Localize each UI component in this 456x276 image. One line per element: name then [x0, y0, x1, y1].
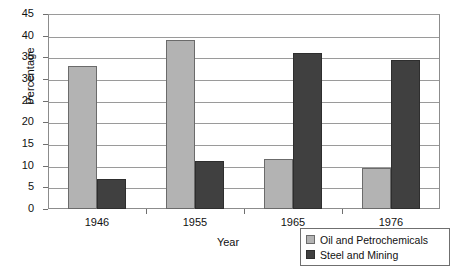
x-tick-label: 1965 — [258, 216, 328, 228]
bar[interactable] — [264, 159, 293, 209]
bar-group — [362, 14, 420, 209]
y-tick-label: 20 — [8, 116, 34, 127]
y-tick-label: 30 — [8, 73, 34, 84]
x-tick-label: 1976 — [356, 216, 426, 228]
chart-legend: Oil and Petrochemicals Steel and Mining — [300, 228, 450, 266]
x-tick-label: 1955 — [160, 216, 230, 228]
legend-item: Steel and Mining — [306, 247, 445, 262]
y-tick-label: 25 — [8, 95, 34, 106]
bar[interactable] — [195, 161, 224, 209]
bar[interactable] — [68, 66, 97, 209]
y-tick-label: 5 — [8, 181, 34, 192]
bar[interactable] — [391, 60, 420, 210]
bar-group — [68, 14, 126, 209]
x-tick-mark — [342, 209, 343, 214]
y-tick-label: 15 — [8, 138, 34, 149]
y-tick-label: 10 — [8, 160, 34, 171]
x-tick-label: 1946 — [62, 216, 132, 228]
legend-swatch-icon — [306, 250, 315, 259]
legend-swatch-icon — [306, 235, 315, 244]
bar[interactable] — [97, 179, 126, 209]
y-tick-label: 40 — [8, 30, 34, 41]
bar-chart: Percentage 454035302520151050 1946195519… — [0, 0, 456, 276]
legend-item: Oil and Petrochemicals — [306, 232, 445, 247]
y-tick-label: 35 — [8, 51, 34, 62]
x-tick-mark — [244, 209, 245, 214]
y-tick-mark — [43, 209, 48, 210]
bar-group — [264, 14, 322, 209]
bar[interactable] — [293, 53, 322, 209]
legend-item-label: Oil and Petrochemicals — [320, 234, 428, 246]
bar[interactable] — [362, 168, 391, 209]
legend-item-label: Steel and Mining — [320, 249, 398, 261]
y-tick-label: 0 — [8, 203, 34, 214]
y-tick-label: 45 — [8, 8, 34, 19]
x-tick-mark — [146, 209, 147, 214]
bar[interactable] — [166, 40, 195, 209]
bar-group — [166, 14, 224, 209]
bars-layer — [48, 14, 440, 209]
